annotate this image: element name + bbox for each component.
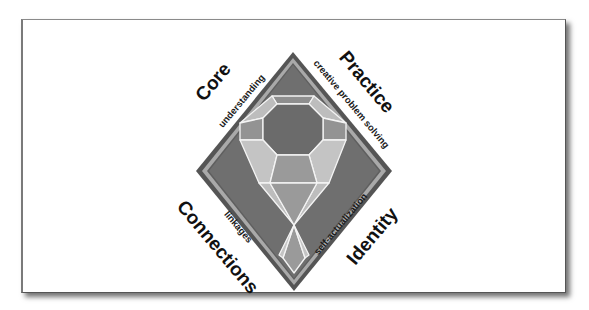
- label-practice: Practice: [335, 47, 399, 117]
- gem-facet: [272, 96, 314, 104]
- label-core: Core: [191, 58, 235, 105]
- gem-facet: [270, 155, 317, 183]
- gem-table-octagon: [263, 104, 323, 155]
- gem-diamond-diagram: Core understanding Practice creative pro…: [0, 0, 589, 310]
